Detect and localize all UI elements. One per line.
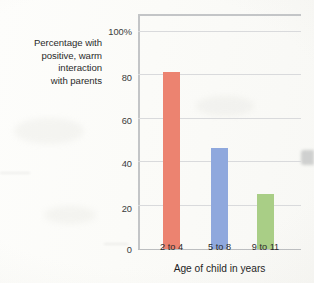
- bar-9-to-11[interactable]: [257, 194, 274, 249]
- bar-5-to-8[interactable]: [211, 148, 228, 248]
- plot-frame-top: [138, 14, 301, 16]
- y-axis-label-line-3: interaction: [6, 62, 102, 75]
- x-tick-label-2-to-4: 2 to 4: [148, 242, 195, 252]
- y-axis-label-line-4: with parents: [6, 75, 102, 88]
- y-tick-label-100: 100%: [108, 27, 132, 37]
- bar-2-to-4[interactable]: [163, 72, 180, 249]
- gridline-100: [138, 31, 301, 32]
- plot-area: [138, 14, 301, 250]
- y-tick-label-60: 60: [108, 116, 132, 126]
- x-tick-label-9-to-11: 9 to 11: [242, 242, 289, 252]
- y-tick-label-20: 20: [108, 204, 132, 214]
- y-axis-label-line-2: positive, warm: [6, 50, 102, 63]
- y-axis-label: Percentage with positive, warm interacti…: [6, 37, 102, 87]
- y-axis-line: [138, 14, 140, 250]
- y-tick-label-80: 80: [108, 73, 132, 83]
- x-axis-title: Age of child in years: [138, 263, 301, 274]
- y-tick-label-40: 40: [108, 159, 132, 169]
- x-tick-label-5-to-8: 5 to 8: [196, 242, 243, 252]
- y-axis-label-line-1: Percentage with: [6, 37, 102, 50]
- y-tick-label-0: 0: [108, 245, 132, 255]
- bar-chart-figure: Percentage with positive, warm interacti…: [0, 0, 314, 283]
